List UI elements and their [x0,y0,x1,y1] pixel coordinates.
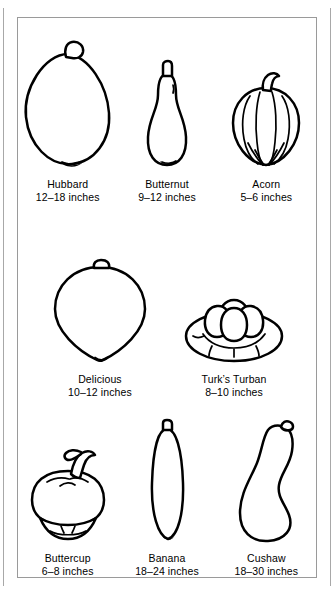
banana-art [117,417,216,547]
squash-size: 9–12 inches [138,191,196,203]
caption-banana: Banana 18–24 inches [135,552,199,577]
delicious-art [33,256,167,368]
squash-size: 12–18 inches [36,191,100,203]
squash-item-hubbard: Hubbard 12–18 inches [18,37,117,203]
buttercup-squash-illustration [25,443,111,547]
caption-turks-turban: Turk’s Turban 8–10 inches [202,373,267,398]
caption-hubbard: Hubbard 12–18 inches [36,178,100,203]
squash-name: Delicious [68,373,132,385]
cushaw-art [217,415,316,547]
squash-item-cushaw: Cushaw 18–30 inches [217,415,316,577]
acorn-squash-illustration [229,65,303,173]
caption-buttercup: Buttercup 6–8 inches [42,552,94,577]
buttercup-art [18,443,117,547]
hubbard-squash-illustration [16,37,120,173]
squash-name: Banana [135,552,199,564]
squash-item-butternut: Butternut 9–12 inches [117,57,216,203]
page-gutter-rule-left [3,8,4,586]
caption-delicious: Delicious 10–12 inches [68,373,132,398]
squash-size: 18–30 inches [234,565,298,577]
squash-name: Acorn [240,178,292,190]
banana-squash-illustration [145,417,189,547]
squash-item-acorn: Acorn 5–6 inches [217,65,316,203]
acorn-art [217,65,316,173]
squash-name: Buttercup [42,552,94,564]
butternut-squash-illustration [141,57,193,173]
squash-size: 10–12 inches [68,386,132,398]
squash-row: Delicious 10–12 inches [18,203,316,398]
squash-item-buttercup: Buttercup 6–8 inches [18,443,117,577]
squash-grid: Hubbard 12–18 inches Butternut [18,18,316,577]
squash-name: Butternut [138,178,196,190]
squash-name: Hubbard [36,178,100,190]
figure-panel: Hubbard 12–18 inches Butternut [17,17,317,578]
page-gutter-rule-right [330,8,331,586]
squash-size: 5–6 inches [240,191,292,203]
hubbard-art [18,37,117,173]
squash-item-banana: Banana 18–24 inches [117,417,216,577]
turks-turban-art [167,286,301,368]
caption-cushaw: Cushaw 18–30 inches [234,552,298,577]
squash-name: Turk’s Turban [202,373,267,385]
squash-size: 6–8 inches [42,565,94,577]
caption-butternut: Butternut 9–12 inches [138,178,196,203]
delicious-squash-illustration [49,256,151,368]
butternut-art [117,57,216,173]
caption-acorn: Acorn 5–6 inches [240,178,292,203]
squash-name: Cushaw [234,552,298,564]
squash-item-turks-turban: Turk’s Turban 8–10 inches [167,286,301,398]
squash-row: Buttercup 6–8 inches Banana 18–24 inches [18,398,316,577]
squash-size: 8–10 inches [202,386,267,398]
squash-row: Hubbard 12–18 inches Butternut [18,24,316,203]
squash-size: 18–24 inches [135,565,199,577]
cushaw-squash-illustration [233,415,299,547]
squash-item-delicious: Delicious 10–12 inches [33,256,167,398]
turks-turban-squash-illustration [182,286,286,368]
